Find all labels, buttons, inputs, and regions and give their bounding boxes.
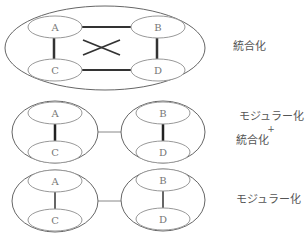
- modular-integration-label: モジュラー化 + 統合化: [236, 110, 306, 148]
- node-d: D: [136, 141, 190, 163]
- svg-text:B: B: [154, 22, 161, 33]
- svg-text:D: D: [154, 65, 162, 76]
- node-a: A: [28, 170, 82, 192]
- node-d: D: [136, 208, 190, 230]
- integration-diagram: A B C D: [5, 6, 205, 90]
- svg-text:A: A: [50, 108, 59, 119]
- svg-text:B: B: [159, 108, 166, 119]
- integration-label: 統合化: [233, 40, 293, 54]
- node-b: B: [131, 16, 185, 38]
- node-b: B: [136, 169, 190, 191]
- svg-text:A: A: [50, 176, 59, 187]
- node-a: A: [28, 16, 82, 38]
- label-line-integration: 統合化: [236, 134, 306, 148]
- node-d: D: [131, 59, 185, 81]
- modular-integration-diagram: A C B D: [12, 101, 205, 163]
- svg-text:A: A: [50, 22, 59, 33]
- node-c: C: [28, 209, 82, 231]
- label-line-modular: モジュラー化: [236, 110, 306, 124]
- svg-text:C: C: [51, 65, 59, 76]
- node-b: B: [136, 102, 190, 124]
- modular-label: モジュラー化: [236, 193, 306, 207]
- svg-text:D: D: [159, 147, 167, 158]
- node-a: A: [28, 102, 82, 124]
- svg-text:C: C: [51, 215, 59, 226]
- node-c: C: [28, 141, 82, 163]
- modular-diagram: A C B D: [12, 169, 205, 232]
- svg-text:D: D: [159, 214, 167, 225]
- svg-text:C: C: [51, 147, 59, 158]
- label-line-plus: +: [236, 124, 306, 134]
- svg-text:B: B: [159, 175, 166, 186]
- node-c: C: [28, 59, 82, 81]
